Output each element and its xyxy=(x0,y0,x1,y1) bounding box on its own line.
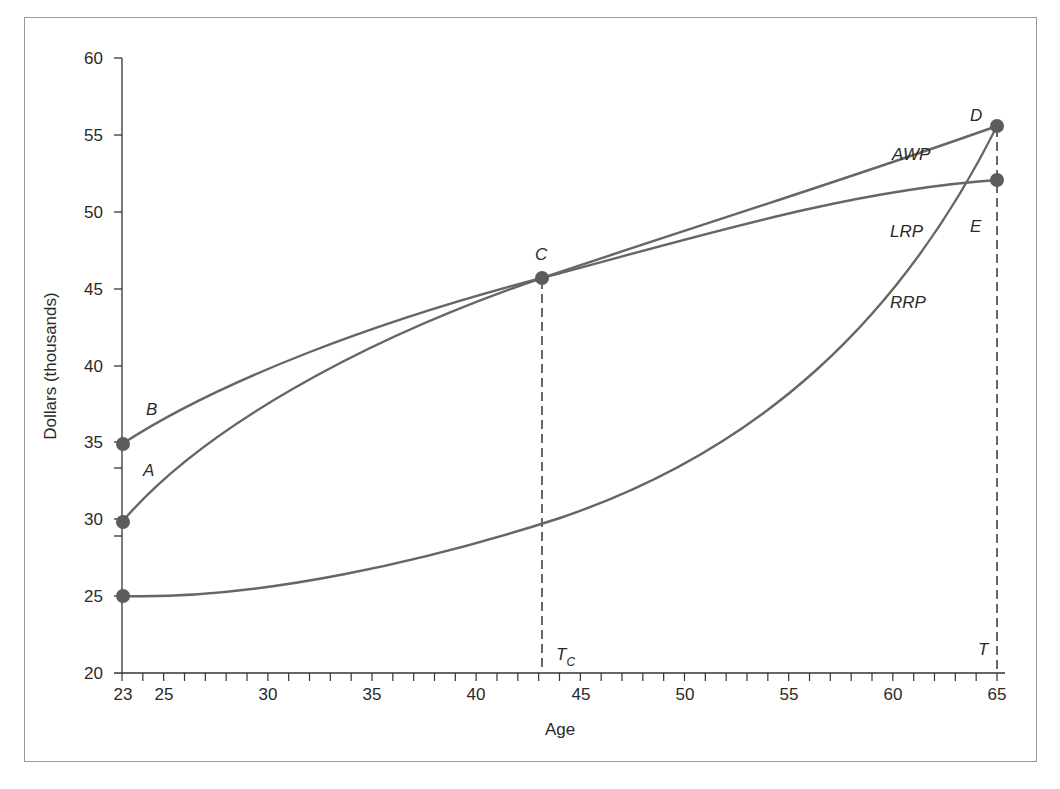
point-b xyxy=(116,437,130,451)
svg-text:50: 50 xyxy=(84,203,103,222)
svg-text:35: 35 xyxy=(84,433,103,452)
svg-text:35: 35 xyxy=(363,685,382,704)
svg-text:65: 65 xyxy=(988,685,1007,704)
y-axis xyxy=(114,58,122,673)
svg-text:40: 40 xyxy=(84,357,103,376)
y-tick-labels: 60 55 50 45 40 35 30 25 20 xyxy=(84,49,103,683)
y-axis-title: Dollars (thousands) xyxy=(41,292,60,439)
label-tc: TC xyxy=(556,645,575,669)
x-axis-title: Age xyxy=(545,720,575,739)
svg-text:45: 45 xyxy=(84,280,103,299)
point-a xyxy=(116,515,130,529)
data-points xyxy=(116,119,1004,603)
label-lrp: LRP xyxy=(890,222,924,241)
point-c xyxy=(535,271,549,285)
svg-text:55: 55 xyxy=(780,685,799,704)
x-tick-labels: 23 25 30 35 40 45 50 55 60 65 xyxy=(114,685,1007,704)
svg-text:25: 25 xyxy=(155,685,174,704)
svg-text:30: 30 xyxy=(259,685,278,704)
label-c: C xyxy=(535,245,548,264)
svg-text:23: 23 xyxy=(114,685,133,704)
label-rrp: RRP xyxy=(890,293,927,312)
x-axis-ticks xyxy=(122,673,997,681)
label-awp: AWP xyxy=(891,145,931,164)
label-t: T xyxy=(978,640,990,659)
point-rrp-start xyxy=(116,589,130,603)
svg-text:40: 40 xyxy=(467,685,486,704)
svg-text:20: 20 xyxy=(84,664,103,683)
chart-svg: 60 55 50 45 40 35 30 25 20 23 25 30 35 4… xyxy=(0,0,1060,789)
svg-text:55: 55 xyxy=(84,126,103,145)
label-d: D xyxy=(970,106,982,125)
point-d xyxy=(990,119,1004,133)
lrp-curve xyxy=(122,180,997,444)
svg-text:25: 25 xyxy=(84,587,103,606)
awp-curve xyxy=(122,126,997,522)
svg-text:60: 60 xyxy=(884,685,903,704)
label-e: E xyxy=(970,217,982,236)
svg-text:50: 50 xyxy=(676,685,695,704)
label-b: B xyxy=(146,400,157,419)
svg-text:45: 45 xyxy=(572,685,591,704)
svg-text:30: 30 xyxy=(84,510,103,529)
point-e xyxy=(990,173,1004,187)
label-a: A xyxy=(142,461,154,480)
svg-text:60: 60 xyxy=(84,49,103,68)
